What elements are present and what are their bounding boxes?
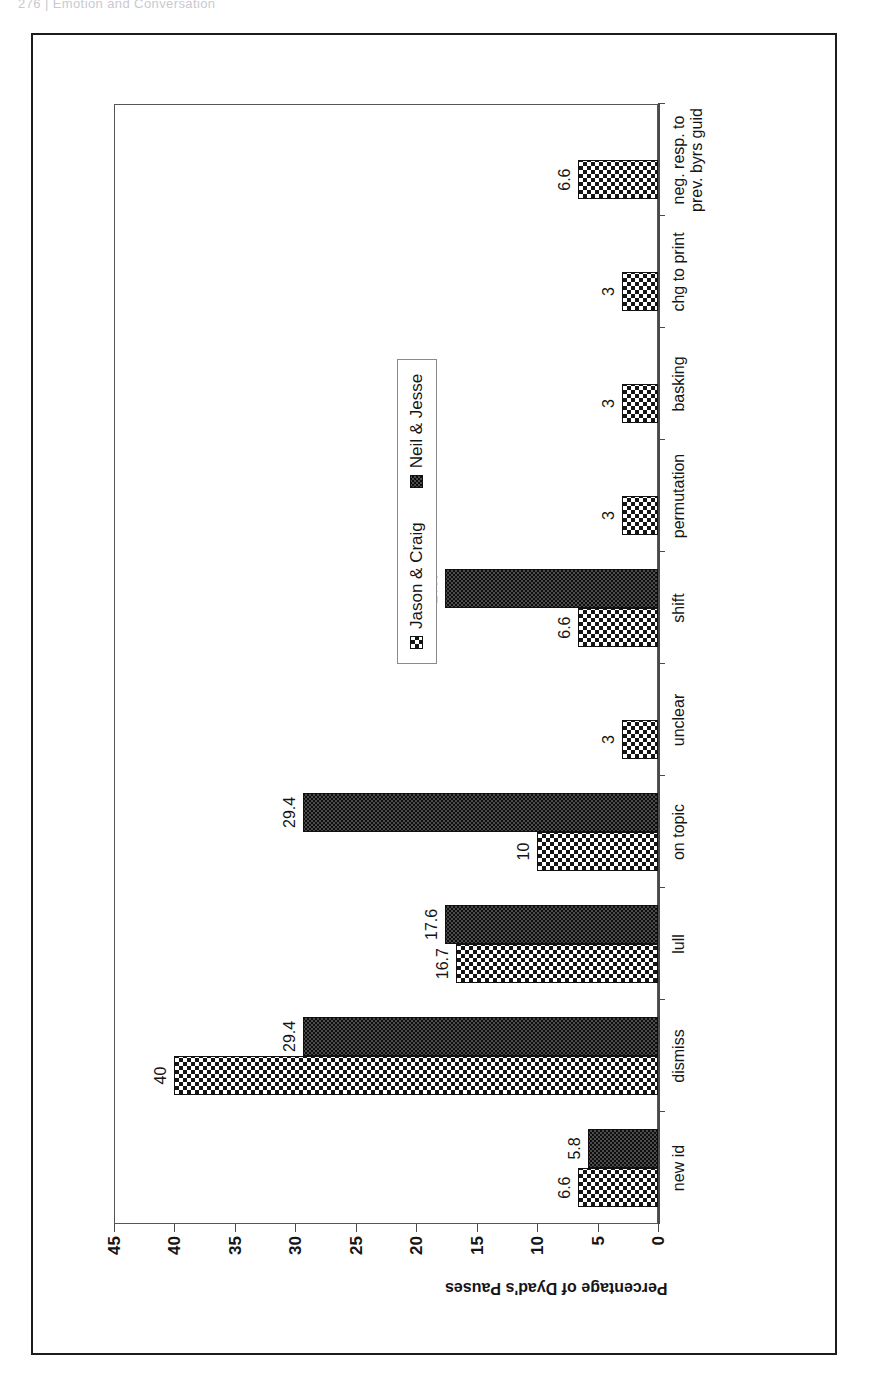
y-axis-tick-mark: [537, 1224, 538, 1232]
bar-value-label: 3: [600, 511, 618, 520]
bar-jason-craig: [174, 1056, 658, 1095]
chart-rotation-wrapper: 051015202530354045 new iddismisslullon t…: [33, 35, 839, 1357]
y-axis-tick-label: 10: [528, 1236, 548, 1270]
x-axis-category-label: basking: [670, 328, 688, 440]
bar-neil-jesse: [303, 1017, 658, 1056]
bar-value-label: 6.6: [556, 168, 574, 190]
x-axis-category-label: shift: [670, 552, 688, 664]
bar-neil-jesse: [303, 793, 658, 832]
x-axis-category-label: neg. resp. to prev. byrs guid: [670, 104, 706, 216]
x-axis-tick-mark: [658, 775, 665, 776]
y-axis-tick-mark: [477, 1224, 478, 1232]
x-axis-category-label: lull: [670, 888, 688, 1000]
x-axis-category-label: permutation: [670, 440, 688, 552]
y-axis-tick-mark: [174, 1224, 175, 1232]
bar-jason-craig: [578, 608, 658, 647]
y-axis-tick-label: 5: [589, 1236, 609, 1270]
bar-jason-craig: [578, 160, 658, 199]
y-axis-tick-label: 30: [286, 1236, 306, 1270]
page-running-head: 276 | Emotion and Conversation: [18, 0, 438, 14]
legend-item: Jason & Craig: [407, 522, 427, 649]
bar-value-label: 29.4: [281, 797, 299, 828]
x-axis-category-label: new id: [670, 1112, 688, 1224]
legend-label: Jason & Craig: [407, 522, 427, 629]
y-axis-tick-label: 35: [226, 1236, 246, 1270]
y-axis-tick-label: 0: [649, 1236, 669, 1270]
bar-jason-craig: [622, 496, 658, 535]
bar-jason-craig: [622, 720, 658, 759]
bar-chart: 051015202530354045 new iddismisslullon t…: [86, 76, 786, 1316]
bar-neil-jesse: [445, 569, 658, 608]
x-axis-tick-mark: [658, 1111, 665, 1112]
legend-label: Neil & Jesse: [407, 374, 427, 468]
legend-swatch-icon: [410, 475, 423, 488]
bar-value-label: 5.8: [566, 1137, 584, 1159]
bar-value-label: 40: [152, 1067, 170, 1085]
bar-value-label: 29.4: [281, 1021, 299, 1052]
y-axis-tick-mark: [598, 1224, 599, 1232]
bar-jason-craig: [456, 944, 658, 983]
bar-value-label: 6.6: [556, 1176, 574, 1198]
legend-item: Neil & Jesse: [407, 374, 427, 488]
x-axis-category-label: unclear: [670, 664, 688, 776]
y-axis-tick-mark: [658, 1224, 659, 1232]
y-axis-tick-mark: [295, 1224, 296, 1232]
bar-neil-jesse: [445, 905, 658, 944]
x-axis-category-label: dismiss: [670, 1000, 688, 1112]
x-axis-tick-mark: [658, 663, 665, 664]
x-axis-tick-mark: [658, 103, 665, 104]
x-axis-tick-mark: [658, 439, 665, 440]
x-axis-baseline: [658, 104, 660, 1224]
figure-frame: 051015202530354045 new iddismisslullon t…: [31, 33, 837, 1355]
bar-value-label: 17.6: [423, 909, 441, 940]
y-axis-tick-label: 40: [165, 1236, 185, 1270]
y-axis-tick-label: 15: [468, 1236, 488, 1270]
bar-value-label: 3: [600, 287, 618, 296]
x-axis-tick-mark: [658, 887, 665, 888]
y-axis-tick-mark: [114, 1224, 115, 1232]
bar-value-label: 3: [600, 399, 618, 408]
bar-value-label: 16.7: [434, 948, 452, 979]
x-axis-tick-mark: [658, 551, 665, 552]
x-axis-category-label: chg to print: [670, 216, 688, 328]
bar-jason-craig: [622, 384, 658, 423]
y-axis-title: Percentage of Dyad's Pauses: [445, 1279, 668, 1297]
chart-legend: Jason & CraigNeil & Jesse: [397, 359, 437, 664]
y-axis-tick-label: 25: [347, 1236, 367, 1270]
x-axis-tick-mark: [658, 327, 665, 328]
y-axis-tick-mark: [416, 1224, 417, 1232]
bar-value-label: 3: [600, 735, 618, 744]
y-axis-tick-mark: [356, 1224, 357, 1232]
y-axis-tick-label: 45: [105, 1236, 125, 1270]
bar-neil-jesse: [588, 1129, 658, 1168]
bar-jason-craig: [578, 1168, 658, 1207]
x-axis-tick-mark: [658, 999, 665, 1000]
y-axis-tick-label: 20: [407, 1236, 427, 1270]
x-axis-tick-mark: [658, 215, 665, 216]
bar-jason-craig: [622, 272, 658, 311]
bar-value-label: 10: [515, 843, 533, 861]
bar-jason-craig: [537, 832, 658, 871]
bar-value-label: 6.6: [556, 616, 574, 638]
y-axis-tick-mark: [235, 1224, 236, 1232]
legend-swatch-icon: [410, 636, 423, 649]
x-axis-category-label: on topic: [670, 776, 688, 888]
